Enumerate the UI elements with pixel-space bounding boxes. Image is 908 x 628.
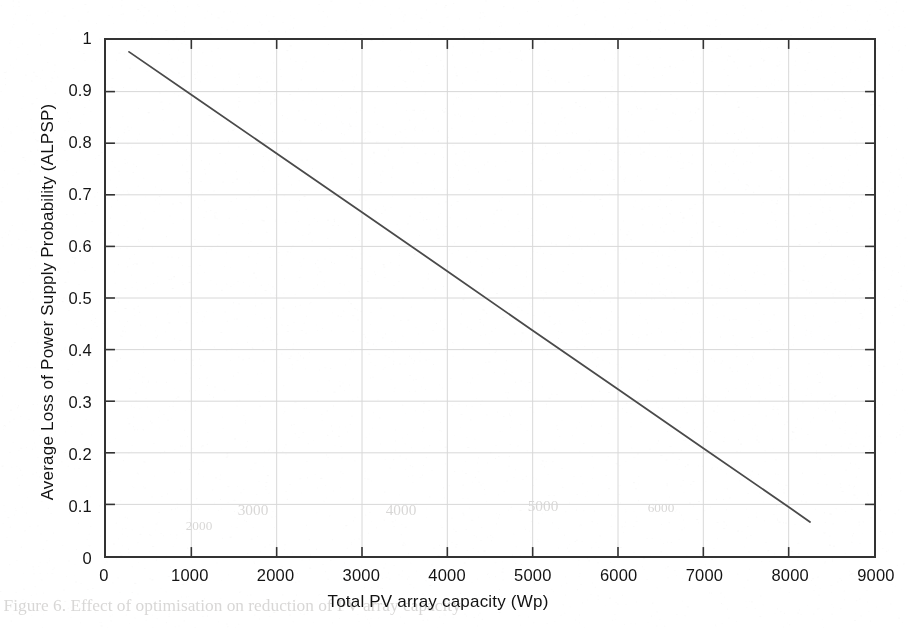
data-series-line [106,40,874,556]
y-tick-label: 0.4 [68,341,92,360]
x-axis-title: Total PV array capacity (Wp) [0,592,908,612]
y-tick-label: 0.2 [68,445,92,464]
y-tick-label: 0.3 [68,393,92,412]
chart-figure: 00.10.20.30.40.50.60.70.80.91 0100020003… [0,0,908,628]
x-tick-label: 1000 [171,566,209,585]
y-tick-label: 0.6 [68,237,92,256]
x-axis-tick-labels: 0100020003000400050006000700080009000 [0,566,908,592]
y-tick-label: 0.7 [68,185,92,204]
x-tick-label: 4000 [428,566,466,585]
x-tick-label: 5000 [514,566,552,585]
x-tick-label: 9000 [857,566,895,585]
y-tick-label: 0.9 [68,81,92,100]
x-tick-label: 0 [99,566,108,585]
y-tick-label: 0.8 [68,133,92,152]
y-axis-title: Average Loss of Power Supply Probability… [38,22,58,582]
x-tick-label: 7000 [686,566,724,585]
x-tick-label: 2000 [257,566,295,585]
x-tick-label: 6000 [600,566,638,585]
x-axis-title-text: Total PV array capacity (Wp) [328,592,549,612]
y-tick-label: 0.1 [68,497,92,516]
y-tick-label: 0 [83,549,92,568]
y-tick-label: 1 [83,29,92,48]
x-tick-label: 8000 [771,566,809,585]
x-tick-label: 3000 [343,566,381,585]
plot-area [104,38,876,558]
y-tick-label: 0.5 [68,289,92,308]
